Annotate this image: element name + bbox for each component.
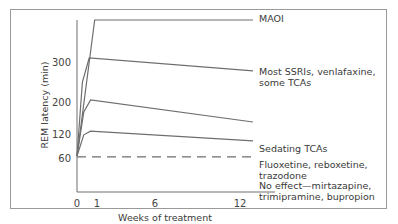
series-label: some TCAs (259, 77, 311, 88)
y-tick-label: 120 (52, 129, 71, 140)
y-tick-label: 60 (58, 153, 71, 164)
axes (77, 20, 275, 192)
x-tick-label: 12 (234, 198, 247, 209)
series-label: Most SSRIs, venlafaxine, (259, 66, 375, 77)
x-axis-label: Weeks of treatment (118, 212, 212, 223)
y-tick-label: 300 (52, 57, 71, 68)
series-label: No effect—mirtazapine, (259, 180, 371, 191)
y-tick-label: 200 (52, 97, 71, 108)
series-label: MAOI (259, 13, 284, 24)
x-tick-label: 6 (152, 198, 158, 209)
series-line-2 (77, 100, 253, 156)
series-label: trimipramine, bupropion (259, 191, 375, 202)
x-tick-label: 1 (94, 198, 100, 209)
x-tick-label: 0 (74, 198, 80, 209)
series-label: Sedating TCAs (259, 143, 328, 154)
rem-latency-chart: 01612 60120200300 MAOIMost SSRIs, venlaf… (0, 0, 398, 224)
series-line-3 (77, 131, 253, 156)
y-axis-label: REM latency (min) (39, 61, 50, 148)
series-label: Fluoxetine, reboxetine, (259, 159, 368, 170)
series-line-1 (77, 58, 253, 156)
